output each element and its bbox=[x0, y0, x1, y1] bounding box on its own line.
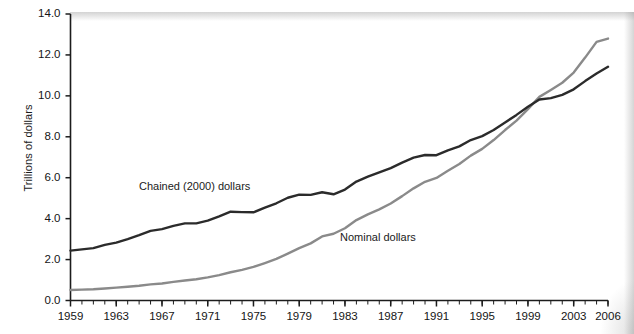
x-tick-label: 1963 bbox=[91, 310, 141, 322]
y-tick-label: 10.0 bbox=[17, 89, 61, 101]
series-label-chained-dollars: Chained (2000) dollars bbox=[139, 180, 250, 192]
x-tick-label: 1995 bbox=[457, 310, 507, 322]
x-tick-label: 1967 bbox=[137, 310, 187, 322]
y-tick-label: 4.0 bbox=[17, 212, 61, 224]
y-tick-label: 12.0 bbox=[17, 48, 61, 60]
chart-figure: Trillions of dollars 0.02.04.06.08.010.0… bbox=[0, 0, 634, 334]
axes bbox=[71, 14, 609, 301]
x-tick-label: 1999 bbox=[503, 310, 553, 322]
x-tick-label: 1959 bbox=[46, 310, 96, 322]
y-tick-label: 0.0 bbox=[17, 294, 61, 306]
y-tick-label: 14.0 bbox=[17, 7, 61, 19]
x-tick-label: 1983 bbox=[320, 310, 370, 322]
data-series-lines bbox=[71, 39, 609, 291]
y-tick-label: 6.0 bbox=[17, 171, 61, 183]
x-tick-label: 1991 bbox=[411, 310, 461, 322]
series-line-nominal-dollars bbox=[71, 39, 609, 291]
x-tick-label: 2006 bbox=[583, 310, 633, 322]
series-label-nominal-dollars: Nominal dollars bbox=[340, 231, 416, 243]
x-tick-label: 1975 bbox=[228, 310, 278, 322]
series-line-chained-2000-dollars bbox=[71, 67, 609, 251]
x-axis-major-ticks bbox=[71, 301, 609, 307]
y-tick-label: 2.0 bbox=[17, 253, 61, 265]
line-chart-plot bbox=[0, 0, 634, 334]
y-tick-label: 8.0 bbox=[17, 130, 61, 142]
x-tick-label: 1971 bbox=[183, 310, 233, 322]
x-tick-label: 1979 bbox=[274, 310, 324, 322]
x-tick-label: 1987 bbox=[366, 310, 416, 322]
